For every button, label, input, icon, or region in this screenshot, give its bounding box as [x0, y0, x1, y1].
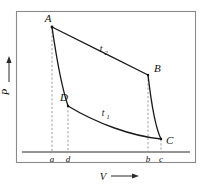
vertex-dot-a: [51, 26, 54, 29]
p-axis-arrow-icon: [6, 56, 11, 82]
point-label-d: D: [59, 91, 68, 103]
v-axis-arrow-icon: [111, 173, 139, 178]
vertex-dot-b: [147, 74, 149, 76]
tick-label-c: c: [159, 154, 163, 164]
tick-label-b: b: [146, 154, 151, 164]
isotherm-t1-curve: [68, 106, 161, 139]
isotherm-label-t1: t: [102, 108, 105, 118]
isotherm-sub-t1: 1: [106, 113, 109, 120]
axis-label-p: P: [0, 88, 11, 96]
vertex-dot-c: [160, 138, 162, 140]
axis-label-v: V: [100, 171, 108, 182]
pv-diagram: A B C D t 2 t 1 a d b c P V: [0, 0, 212, 190]
point-label-b: B: [154, 62, 161, 74]
vertex-dot-d: [67, 105, 69, 107]
isotherm-label-t2: t: [100, 44, 103, 54]
figure-container: A B C D t 2 t 1 a d b c P V: [0, 0, 212, 190]
adiabat-bc-curve: [148, 75, 161, 139]
point-label-a: A: [44, 12, 52, 24]
tick-label-d: d: [66, 154, 71, 164]
point-label-c: C: [166, 134, 174, 146]
tick-label-a: a: [50, 154, 55, 164]
